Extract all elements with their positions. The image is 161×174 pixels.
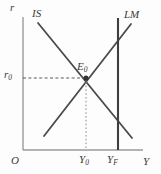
diagram-canvas	[0, 0, 161, 174]
lm-curve-label: LM	[124, 9, 139, 20]
equilibrium-point-marker	[84, 76, 89, 81]
is-curve-label: IS	[32, 8, 41, 19]
r0-axis-label: r0	[4, 69, 12, 80]
y0-subscript: 0	[85, 158, 89, 167]
origin-label: O	[11, 155, 19, 166]
r0-subscript: 0	[8, 73, 12, 82]
y0-axis-label: Y0	[79, 154, 89, 165]
yf-subscript: F	[113, 158, 118, 167]
e0-base: E	[77, 60, 84, 72]
e0-subscript: 0	[84, 65, 88, 74]
y-axis-label: r	[10, 2, 14, 13]
is-lm-diagram: r IS LM r0 E0 O Y0 YF Y	[0, 0, 161, 174]
x-axis-label: Y	[143, 156, 149, 167]
yf-axis-label: YF	[107, 154, 118, 165]
equilibrium-label: E0	[77, 61, 87, 72]
